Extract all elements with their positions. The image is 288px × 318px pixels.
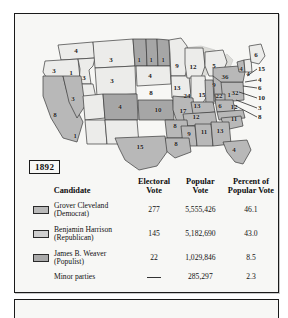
callout-label: 4 <box>258 76 262 84</box>
legend-swatch-cleveland <box>33 206 49 214</box>
state-vote-label: 4 <box>74 47 78 55</box>
candidate-party-line: (Republican) <box>54 234 112 242</box>
state-vote-label: 1 <box>73 132 76 139</box>
election-results-table: Candidate Electoral Vote Popular Vote Pe… <box>15 177 276 285</box>
callout-label: 3 <box>258 104 262 112</box>
candidate-name: Benjamin Harrison (Republican) <box>54 226 112 243</box>
state-vote-label: 3 <box>110 77 114 85</box>
state-vote-label: 4 <box>148 72 152 80</box>
year-label: 1892 <box>29 160 60 174</box>
candidate-party-line: (Populist) <box>54 258 106 266</box>
state-vote-label: 4 <box>246 70 249 77</box>
state-vote-label: 1 <box>69 69 72 76</box>
col-header-popular-line1: Popular <box>186 177 215 186</box>
candidate-cell: Benjamin Harrison (Republican) <box>15 222 133 246</box>
state-vote-label: 13 <box>174 84 181 92</box>
state-vote-label: 9 <box>212 81 216 89</box>
us-electoral-map: .st{stroke:#3a3a3a;stroke-width:.7;} .de… <box>15 14 276 174</box>
state-vote-label: 3 <box>109 56 113 64</box>
state-vote-label: 10 <box>155 106 162 114</box>
state-vote-label: 3 <box>71 95 75 103</box>
state-vote-label: 11 <box>231 115 238 123</box>
state-vote-label: 13 <box>217 127 224 135</box>
col-header-percent-line2: Popular Vote <box>228 186 274 195</box>
state-vote-label: 15 <box>199 91 206 99</box>
legend-swatch-harrison <box>33 230 49 238</box>
col-header-popular-line2: Vote <box>192 186 208 195</box>
state-vote-label: 22 <box>216 92 223 100</box>
callout-label: 6 <box>258 84 262 92</box>
col-header-candidate: Candidate <box>15 177 133 198</box>
candidate-cell: Grover Cleveland (Democrat) <box>15 198 133 222</box>
candidate-name: James B. Weaver (Populist) <box>54 250 106 267</box>
state-vote-label: 3 <box>82 74 86 82</box>
popular-vote-value: 5,555,426 <box>175 198 226 222</box>
results-table: Candidate Electoral Vote Popular Vote Pe… <box>15 177 276 292</box>
candidate-cell: James B. Weaver (Populist) <box>15 246 133 270</box>
percent-value: 43.0 <box>226 222 276 246</box>
state-vote-label: 13 <box>194 102 201 110</box>
state-vote-label: 9 <box>187 130 191 138</box>
candidate-name: Grover Cleveland (Democrat) <box>54 202 108 219</box>
callout-label: 8 <box>258 113 262 121</box>
candidate-party-line: (Democrat) <box>54 210 108 218</box>
state-vote-label: 24 <box>184 92 191 100</box>
col-header-electoral-vote: Electoral Vote <box>133 177 175 198</box>
percent-value: 8.5 <box>226 246 276 270</box>
table-row: Grover Cleveland (Democrat) 277 5,555,42… <box>15 198 276 222</box>
table-body: Grover Cleveland (Democrat) 277 5,555,42… <box>15 198 276 285</box>
next-figure-panel-partial <box>14 299 279 318</box>
state-vote-label: 1 <box>137 56 140 63</box>
popular-vote-value: 5,182,690 <box>175 222 226 246</box>
state-vote-label: 1 <box>161 56 164 63</box>
electoral-vote-value: 277 <box>133 198 175 222</box>
state-vote-label: 32 <box>232 89 239 97</box>
table-row-minor-parties: Minor parties 285,297 2.3 <box>15 270 276 285</box>
state-vote-label: 8 <box>149 89 153 97</box>
col-header-electoral-line2: Vote <box>146 186 162 195</box>
callout-label: 15 <box>258 65 265 73</box>
legend-swatch-weaver <box>33 254 49 262</box>
minor-parties-cell: Minor parties <box>15 270 133 285</box>
state-vote-label: 9 <box>175 62 179 70</box>
callout-label: 10 <box>258 94 265 102</box>
col-header-popular-vote: Popular Vote <box>175 177 226 198</box>
minor-electoral-vote <box>133 270 175 285</box>
state-vote-label: 1 <box>149 56 152 63</box>
state-vote-label: 15 <box>137 143 144 151</box>
state-vote-label: 1 <box>227 91 230 98</box>
minor-percent: 2.3 <box>226 270 276 285</box>
state-vote-label: 6 <box>218 102 222 110</box>
percent-value: 46.1 <box>226 198 276 222</box>
electoral-vote-value: 145 <box>133 222 175 246</box>
state-vote-label: 12 <box>190 63 197 71</box>
state-vote-label: 4 <box>118 103 122 111</box>
state-vote-label: 8 <box>53 111 57 119</box>
state-vote-label: 17 <box>180 107 187 115</box>
col-header-percent: Percent of Popular Vote <box>226 177 276 198</box>
state-vote-label: 3 <box>52 67 56 75</box>
state-vote-label: 5 <box>212 62 216 70</box>
col-header-percent-line1: Percent of <box>233 177 269 186</box>
state-vote-label: 12 <box>193 113 200 121</box>
table-header: Candidate Electoral Vote Popular Vote Pe… <box>15 177 276 198</box>
state-vote-label: 12 <box>231 103 238 111</box>
state-vote-label: 8 <box>174 140 178 148</box>
state-vote-label: 4 <box>232 146 236 154</box>
state-vote-label: 4 <box>239 65 242 72</box>
col-header-electoral-line1: Electoral <box>138 177 170 186</box>
minor-parties-label: Minor parties <box>54 272 95 281</box>
state-vote-label: 11 <box>201 128 208 136</box>
state-vote-label: 36 <box>222 73 229 81</box>
minor-popular-vote: 285,297 <box>175 270 226 285</box>
map-figure-panel: .st{stroke:#3a3a3a;stroke-width:.7;} .de… <box>14 13 279 293</box>
electoral-vote-value: 22 <box>133 246 175 270</box>
state-vote-label: 6 <box>254 51 258 59</box>
table-row: James B. Weaver (Populist) 22 1,029,846 … <box>15 246 276 270</box>
table-header-row: Candidate Electoral Vote Popular Vote Pe… <box>15 177 276 198</box>
popular-vote-value: 1,029,846 <box>175 246 226 270</box>
table-row: Benjamin Harrison (Republican) 145 5,182… <box>15 222 276 246</box>
state-vote-label: 8 <box>173 122 177 130</box>
